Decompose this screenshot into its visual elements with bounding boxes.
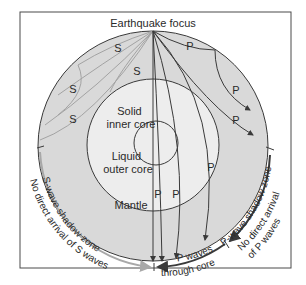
p-wave-label: P	[154, 188, 161, 200]
p-wave-label: P	[186, 40, 193, 52]
p-wave-label: P	[232, 84, 239, 96]
p-wave-label: P	[207, 161, 214, 173]
s-wave-label: S	[114, 42, 121, 54]
s-wave-label: S	[69, 83, 76, 95]
p-wave-label: P	[172, 188, 179, 200]
earth-seismic-wave-diagram: Earthquake focus S S S S P P P P P P Sol…	[0, 0, 306, 285]
s-wave-label: S	[69, 113, 76, 125]
earthquake-focus-label: Earthquake focus	[110, 17, 196, 29]
mantle-label: Mantle	[114, 199, 147, 211]
p-wave-label: P	[232, 114, 239, 126]
s-wave-label: S	[133, 65, 140, 77]
